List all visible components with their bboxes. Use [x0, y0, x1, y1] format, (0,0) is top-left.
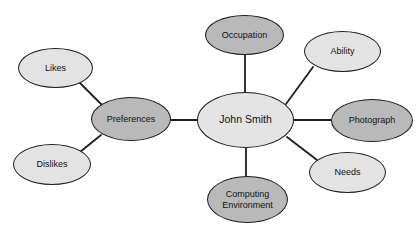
- node-john-smith[interactable]: John Smith: [197, 92, 294, 148]
- node-occupation[interactable]: Occupation: [205, 15, 284, 55]
- node-label-john-smith: John Smith: [215, 114, 276, 126]
- node-ability[interactable]: Ability: [304, 31, 381, 72]
- mind-map-diagram: John SmithOccupationAbilityPhotographNee…: [0, 0, 418, 228]
- node-label-likes: Likes: [41, 63, 70, 73]
- node-likes[interactable]: Likes: [18, 48, 93, 88]
- node-label-occupation: Occupation: [218, 30, 272, 40]
- node-label-computing-environment: Computing Environment: [218, 189, 277, 209]
- node-photograph[interactable]: Photograph: [331, 99, 413, 142]
- node-dislikes[interactable]: Dislikes: [13, 144, 91, 185]
- node-label-ability: Ability: [326, 46, 358, 56]
- node-label-preferences: Preferences: [103, 114, 160, 124]
- edge-preferences-likes: [80, 83, 102, 105]
- edge-john-smith-ability: [286, 67, 313, 104]
- node-preferences[interactable]: Preferences: [91, 97, 171, 141]
- node-label-needs: Needs: [330, 167, 364, 177]
- node-label-dislikes: Dislikes: [32, 159, 71, 169]
- node-computing-environment[interactable]: Computing Environment: [207, 176, 288, 223]
- edge-john-smith-needs: [287, 137, 317, 160]
- edge-preferences-dislikes: [80, 135, 101, 152]
- node-label-photograph: Photograph: [345, 115, 400, 125]
- node-needs[interactable]: Needs: [309, 152, 386, 193]
